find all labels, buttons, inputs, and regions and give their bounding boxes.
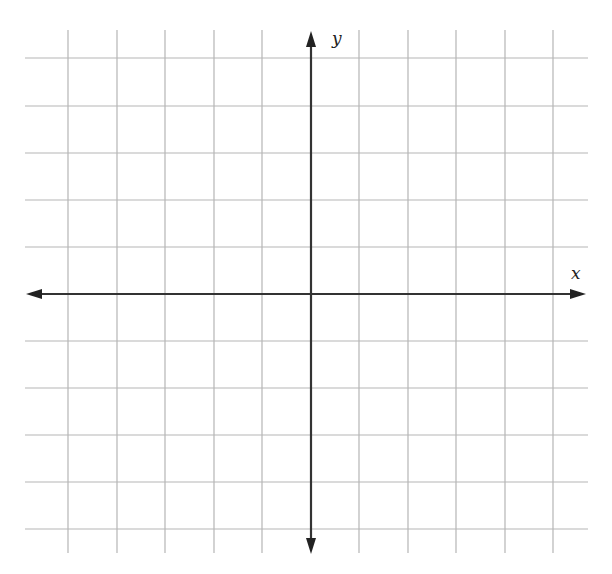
- y-axis-label: y: [331, 28, 342, 48]
- arrow-left-icon: [26, 289, 42, 299]
- arrow-up-icon: [306, 31, 316, 47]
- axes: [26, 31, 586, 554]
- arrow-right-icon: [570, 289, 586, 299]
- grid-lines: [25, 30, 588, 553]
- x-axis-label: x: [571, 263, 581, 283]
- coordinate-plane: x y: [0, 0, 612, 574]
- arrow-down-icon: [306, 538, 316, 554]
